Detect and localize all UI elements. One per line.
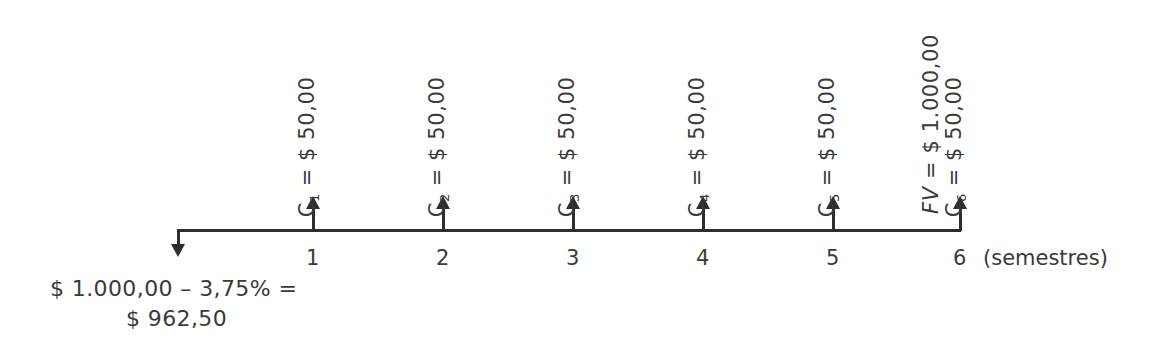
period-number: 6	[940, 246, 980, 270]
cash-flow-label: C1 = $ 50,00	[295, 77, 322, 218]
period-number: 5	[813, 246, 853, 270]
equals-sign: =	[919, 154, 943, 187]
cash-flow-subscript: 3	[567, 194, 582, 202]
period-number: 3	[553, 246, 593, 270]
initial-outflow-line-1: $ 1.000,00 – 3,75% =	[50, 276, 297, 301]
cash-flow-symbol: C	[555, 202, 579, 217]
cash-flow-value: $ 50,00	[555, 77, 579, 161]
initial-outflow-line-2: $ 962,50	[126, 306, 227, 331]
cash-flow-subscript: 6	[954, 194, 969, 202]
cash-flow-value: $ 50,00	[295, 77, 319, 161]
cash-flow-symbol: C	[685, 202, 709, 217]
cash-flow-value: $ 50,00	[815, 77, 839, 161]
period-number: 1	[293, 246, 333, 270]
cash-flow-label: FV = $ 1.000,00	[919, 34, 943, 214]
period-number: 2	[423, 246, 463, 270]
cash-flow-value: $ 1.000,00	[919, 34, 943, 154]
cash-flow-subscript: 5	[827, 194, 842, 202]
cash-flow-symbol: C	[425, 202, 449, 217]
timeline-axis	[178, 229, 961, 232]
equals-sign: =	[685, 161, 709, 194]
cash-flow-symbol: FV	[919, 186, 943, 214]
period-number: 4	[683, 246, 723, 270]
cash-flow-subscript: 2	[437, 194, 452, 202]
cash-flow-subscript: 1	[307, 194, 322, 202]
cash-flow-value: $ 50,00	[942, 77, 966, 161]
equals-sign: =	[815, 161, 839, 194]
cash-flow-symbol: C	[295, 202, 319, 217]
axis-unit-label: (semestres)	[983, 246, 1108, 270]
cash-flow-label: C5 = $ 50,00	[815, 77, 842, 218]
cash-flow-diagram: C1 = $ 50,00C2 = $ 50,00C3 = $ 50,00C4 =…	[0, 0, 1153, 345]
cash-flow-label: C2 = $ 50,00	[425, 77, 452, 218]
cash-flow-subscript: 4	[697, 194, 712, 202]
equals-sign: =	[295, 161, 319, 194]
cash-flow-symbol: C	[815, 202, 839, 217]
down-arrow-icon	[171, 244, 185, 257]
cash-flow-value: $ 50,00	[425, 77, 449, 161]
cash-flow-label: C6 = $ 50,00	[942, 77, 969, 218]
equals-sign: =	[942, 161, 966, 194]
cash-flow-label: C3 = $ 50,00	[555, 77, 582, 218]
cash-flow-label: C4 = $ 50,00	[685, 77, 712, 218]
cash-flow-symbol: C	[942, 202, 966, 217]
equals-sign: =	[555, 161, 579, 194]
cash-flow-value: $ 50,00	[685, 77, 709, 161]
equals-sign: =	[425, 161, 449, 194]
